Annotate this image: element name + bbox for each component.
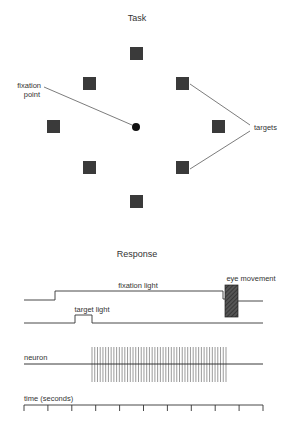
target-square-left	[47, 120, 60, 133]
eye-movement-box	[225, 285, 238, 317]
target-square-lower-left	[83, 161, 96, 174]
fixation-label-line2: point	[24, 90, 41, 99]
fixation-point-dot	[132, 123, 140, 131]
target-light-label: target light	[74, 305, 110, 314]
targets-label: targets	[254, 123, 277, 132]
target-square-upper-left	[83, 77, 96, 90]
task-response-diagram: Task fixation point targets Response fix…	[0, 0, 294, 427]
eye-movement-label: eye movement	[226, 274, 276, 283]
response-panel: Response fixation light eye movement tar…	[24, 249, 277, 411]
task-title: Task	[128, 13, 147, 23]
target-square-lower-right	[176, 161, 189, 174]
fixation-light-label: fixation light	[118, 281, 159, 290]
fixation-pointer-line	[44, 87, 132, 125]
target-square-bottom	[130, 195, 143, 208]
response-title: Response	[117, 249, 158, 259]
target-square-top	[130, 47, 143, 60]
fixation-label-line1: fixation	[17, 81, 41, 90]
time-axis-ticks	[24, 405, 263, 411]
task-panel: Task fixation point targets	[17, 13, 277, 208]
time-axis-label: time (seconds)	[24, 394, 74, 403]
target-square-upper-right	[176, 77, 189, 90]
targets-pointer-line-upper	[190, 84, 250, 125]
fixation-light-trace	[24, 291, 225, 300]
neuron-spikes	[92, 347, 226, 382]
neuron-label: neuron	[24, 353, 47, 362]
target-square-right	[212, 120, 225, 133]
targets-pointer-line-lower	[190, 131, 250, 169]
